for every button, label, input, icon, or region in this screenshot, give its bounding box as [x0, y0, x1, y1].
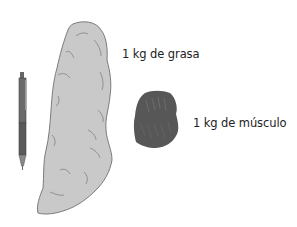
- muscle-blob-icon: [134, 91, 178, 148]
- muscle-label: 1 kg de músculo: [193, 116, 286, 130]
- illustration: 1 kg de grasa 1 kg de músculo: [0, 0, 297, 227]
- fat-label: 1 kg de grasa: [122, 47, 199, 61]
- pen-icon: [19, 72, 27, 170]
- fat-blob-icon: [37, 22, 112, 214]
